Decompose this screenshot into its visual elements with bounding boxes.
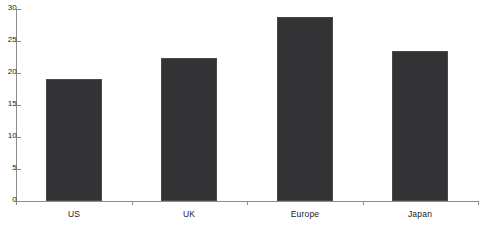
y-axis-tick-mark bbox=[17, 137, 21, 138]
x-axis-tick-mark bbox=[132, 201, 133, 205]
y-axis-tick-mark bbox=[17, 41, 21, 42]
bar bbox=[277, 17, 333, 201]
x-axis-tick-mark bbox=[247, 201, 248, 205]
x-axis-tick-label: Europe bbox=[255, 209, 355, 220]
x-axis-tick-label: US bbox=[24, 209, 124, 220]
x-axis-tick-mark bbox=[16, 201, 17, 205]
y-axis-tick-label: 10 bbox=[8, 131, 17, 141]
y-axis-tick-label: 30 bbox=[8, 3, 17, 13]
y-axis-tick-label: 25 bbox=[8, 35, 17, 45]
y-axis-tick-mark bbox=[17, 73, 21, 74]
y-axis-tick-label: 15 bbox=[8, 99, 17, 109]
bar bbox=[46, 79, 102, 201]
x-axis-tick-mark bbox=[478, 201, 479, 205]
x-axis-tick-label: UK bbox=[139, 209, 239, 220]
y-axis-tick-label: 5 bbox=[12, 163, 17, 173]
x-axis-tick-mark bbox=[363, 201, 364, 205]
y-axis-tick-mark bbox=[17, 9, 21, 10]
y-axis-tick-mark bbox=[17, 169, 21, 170]
y-axis-tick-label: 20 bbox=[8, 67, 17, 77]
bar-chart: 051015202530 USUKEuropeJapan bbox=[0, 0, 489, 228]
y-axis-tick-mark bbox=[17, 201, 21, 202]
y-axis-tick-mark bbox=[17, 105, 21, 106]
x-axis-tick-label: Japan bbox=[370, 209, 470, 220]
bar bbox=[392, 51, 448, 201]
bar bbox=[161, 58, 217, 201]
